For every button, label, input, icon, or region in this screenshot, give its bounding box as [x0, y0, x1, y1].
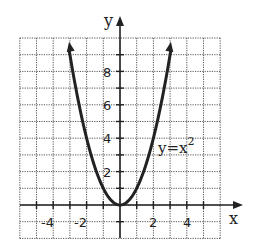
x-tick-label: 2: [149, 215, 157, 230]
y-tick-label: 2: [103, 165, 111, 180]
x-tick-label: -2: [74, 215, 87, 230]
y-axis-label: y: [103, 11, 113, 30]
x-axis-label: x: [229, 209, 238, 228]
y-tick-label: 8: [103, 65, 111, 80]
curve-arrow-left-icon: [67, 42, 75, 53]
y-tick-label: 6: [103, 98, 111, 113]
x-tick-label: 4: [183, 215, 191, 230]
x-axis-arrow-icon: [233, 201, 243, 209]
curve-label: y=x2: [157, 135, 195, 157]
parabola-chart: -4 -2 2 4 2 4 6 8 x y y=x2: [0, 0, 256, 250]
x-tick-label: -4: [41, 215, 54, 230]
y-tick-label: 4: [103, 131, 111, 146]
curve-arrow-right-icon: [165, 42, 173, 53]
y-axis-arrow-icon: [116, 16, 124, 26]
